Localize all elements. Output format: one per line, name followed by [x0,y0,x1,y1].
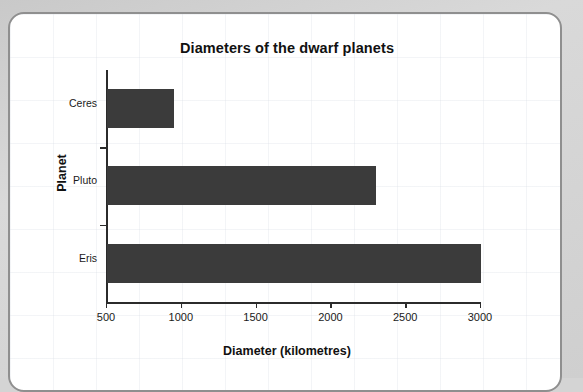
x-tick-label-5: 3000 [450,311,510,323]
x-tick-mark-0 [106,302,107,308]
x-tick-label-2: 1500 [226,311,286,323]
bar-group-0: Ceres [106,70,480,147]
plot-area: Ceres Pluto Eris [106,70,480,302]
x-tick-label-0: 500 [76,311,136,323]
x-tick-mark-4 [405,302,406,308]
bar-chart: Diameters of the dwarf planets Planet Ce… [10,14,564,392]
x-tick-mark-3 [330,302,331,308]
bar-ceres[interactable] [107,89,174,128]
x-tick-label-1: 1000 [151,311,211,323]
chart-card: Diameters of the dwarf planets Planet Ce… [8,12,562,392]
y-tick-mark-1 [100,147,106,148]
x-axis-title: Diameter (kilometres) [10,344,564,358]
x-tick-mark-5 [480,302,481,308]
bar-group-1: Pluto [106,147,480,224]
y-tick-label-1: Pluto [0,174,97,186]
x-tick-mark-2 [256,302,257,308]
x-tick-label-3: 2000 [300,311,360,323]
chart-title: Diameters of the dwarf planets [10,40,564,56]
bar-group-2: Eris [106,225,480,302]
bar-eris[interactable] [107,244,481,283]
x-tick-label-4: 2500 [375,311,435,323]
y-axis-title: Planet [55,113,69,233]
y-tick-mark-2 [100,225,106,226]
y-tick-label-0: Ceres [0,97,97,109]
y-tick-label-2: Eris [0,252,97,264]
x-tick-mark-1 [181,302,182,308]
bar-pluto[interactable] [107,166,376,205]
x-axis-line [106,302,480,304]
